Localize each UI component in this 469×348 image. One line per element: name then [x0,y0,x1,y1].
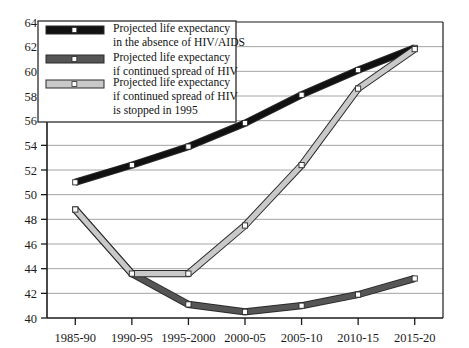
legend-label-line: Projected life expectancy [113,76,230,89]
y-tick-label: 42 [25,287,38,301]
y-tick-label: 44 [25,262,38,276]
x-tick-label: 1995-2000 [161,331,215,345]
data-point-marker [73,207,78,212]
y-tick-label: 60 [25,65,38,79]
y-tick-label: 56 [25,114,38,128]
data-point-marker [129,271,134,276]
chart-svg: 40424446485052545658606264 1985-901990-9… [0,0,469,348]
data-point-marker [242,309,247,314]
y-tick-label: 58 [25,90,38,104]
x-tick-label: 1990-95 [111,331,153,345]
data-point-marker [356,86,361,91]
x-tick-label: 2000-05 [224,331,266,345]
data-point-marker [186,271,191,276]
data-point-marker [186,302,191,307]
x-tick-label: 2005-10 [281,331,323,345]
chart-legend: Projected life expectancyin the absence … [38,21,245,122]
y-tick-label: 48 [25,213,38,227]
legend-swatch-marker [72,82,77,87]
legend-swatch-marker [72,28,77,33]
x-tick-label: 2010-15 [337,331,379,345]
life-expectancy-line-chart: 40424446485052545658606264 1985-901990-9… [0,0,469,348]
data-point-marker [129,163,134,168]
y-tick-label: 50 [25,188,38,202]
data-point-marker [242,223,247,228]
data-point-marker [356,292,361,297]
legend-label-line: if continued spread of HIV [113,90,239,103]
y-tick-label: 54 [25,139,38,153]
x-tick-label: 2015-20 [394,331,436,345]
y-tick-label: 64 [25,16,38,30]
legend-label-line: Projected life expectancy [113,51,230,64]
data-point-marker [73,180,78,185]
data-point-marker [299,92,304,97]
data-point-marker [299,163,304,168]
y-tick-label: 62 [25,40,38,54]
data-point-marker [412,47,417,52]
y-tick-label: 40 [25,312,38,326]
legend-label-line: is stopped in 1995 [113,104,198,117]
y-tick-label: 46 [25,238,38,252]
data-point-marker [299,303,304,308]
legend-label-line: in the absence of HIV/AIDS [113,36,245,49]
data-point-marker [242,121,247,126]
data-point-marker [356,68,361,73]
data-point-marker [186,144,191,149]
x-tick-label: 1985-90 [54,331,96,345]
legend-swatch-marker [72,57,77,62]
legend-label-line: Projected life expectancy [113,22,230,35]
y-tick-label: 52 [25,164,38,178]
data-point-marker [412,276,417,281]
